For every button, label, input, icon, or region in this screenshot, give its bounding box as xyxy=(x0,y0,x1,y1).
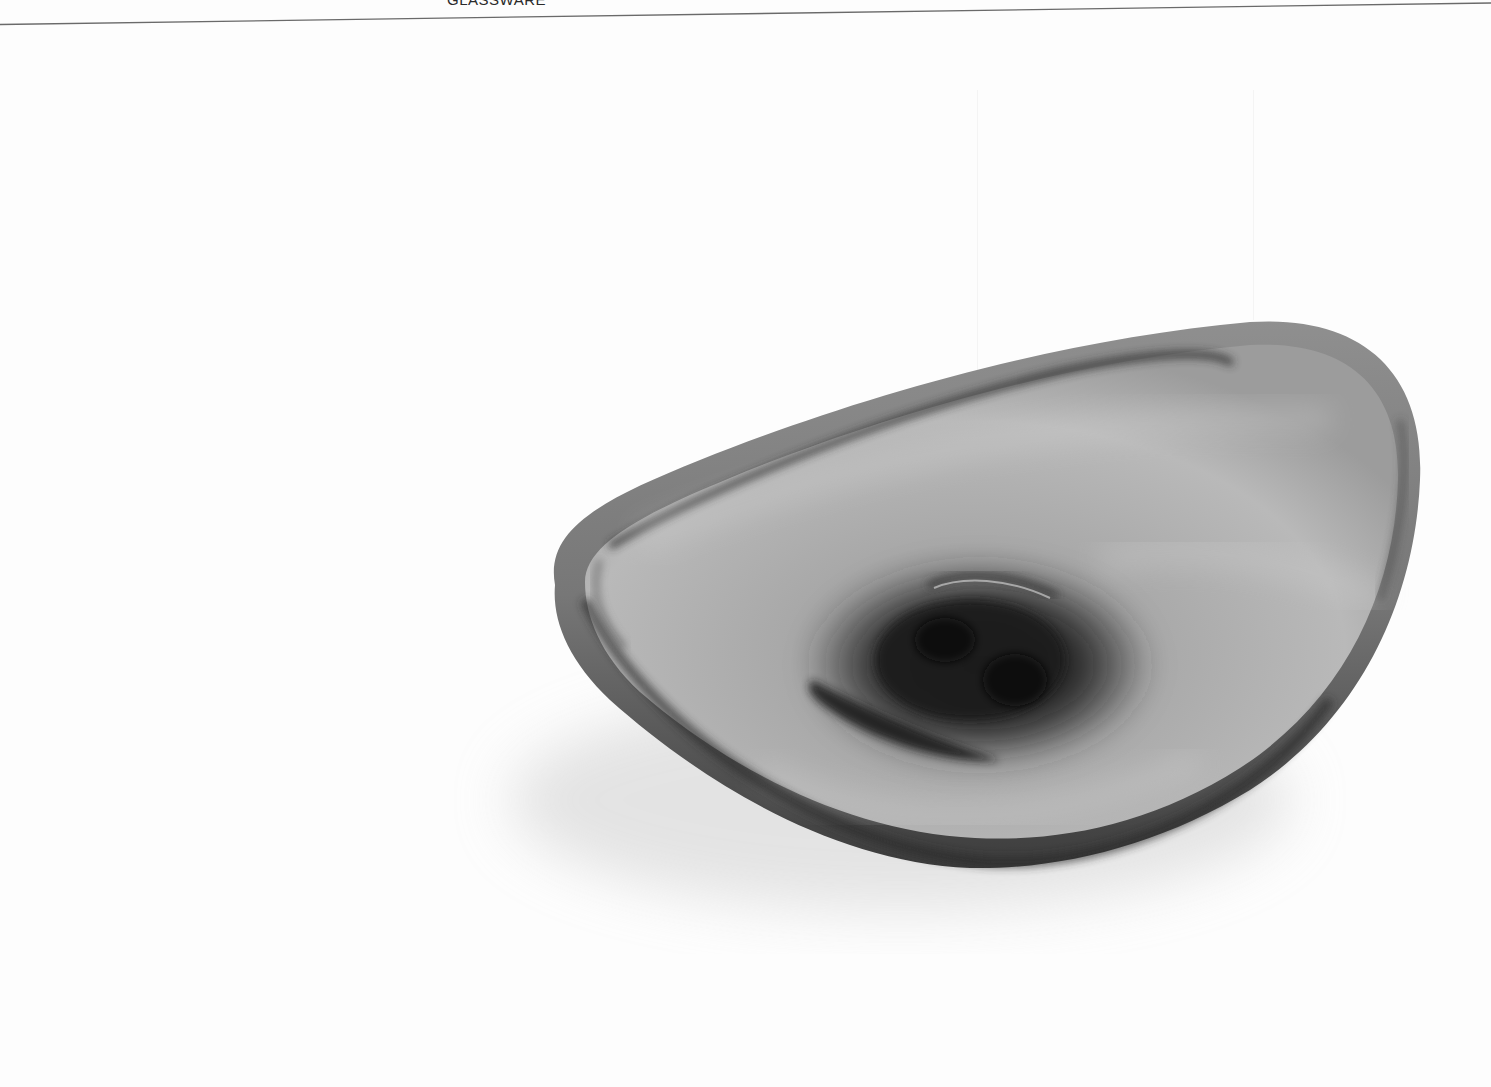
catalog-page: GLASSWARE xyxy=(0,0,1491,1087)
bowl-center-well xyxy=(805,560,1155,770)
bowl-photo xyxy=(0,0,1491,1087)
